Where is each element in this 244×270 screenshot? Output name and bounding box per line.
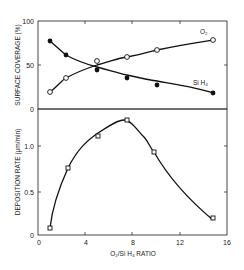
x-axis-label: O₂/Si H₄ RATIO [110, 250, 156, 257]
sih4-curve [50, 41, 213, 93]
top-ticks [38, 21, 227, 65]
top-y-axis-label: SURFACE COVERAGE (%) [14, 24, 22, 105]
top-ytick-100: 100 [22, 18, 34, 25]
xtick-16: 16 [223, 239, 231, 246]
deposition-markers [48, 118, 215, 230]
xtick-4: 4 [84, 239, 88, 246]
top-ytick-50: 50 [26, 62, 34, 69]
deposition-curve [50, 120, 213, 228]
o2-markers [48, 38, 216, 95]
chart-figure: 100 50 0 1.0 0.5 0 0 4 8 12 16 O₂/Si H₄ … [0, 0, 244, 270]
legend-o2: O₂ [200, 28, 208, 35]
legend-sih4: Si H₄ [193, 79, 208, 86]
bot-ytick-05: 0.5 [24, 189, 34, 196]
bot-ytick-0: 0 [30, 232, 34, 239]
top-ytick-0: 0 [30, 106, 34, 113]
xtick-8: 8 [131, 239, 135, 246]
o2-curve [50, 40, 213, 92]
bot-ytick-1: 1.0 [24, 143, 34, 150]
xtick-0: 0 [37, 239, 41, 246]
bottom-ticks [38, 146, 227, 235]
xtick-12: 12 [176, 239, 184, 246]
bottom-y-axis-label: DEPOSITION RATE (μm/min) [14, 129, 22, 215]
top-plot-frame [38, 21, 227, 109]
